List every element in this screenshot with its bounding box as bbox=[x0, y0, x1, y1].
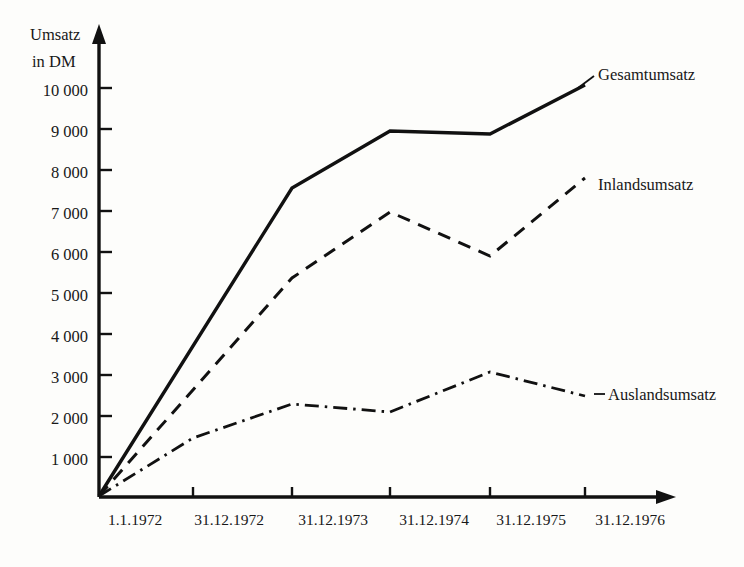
leader-gesamtumsatz bbox=[578, 76, 594, 88]
y-tick-label: 9 000 bbox=[51, 122, 88, 141]
series-line-gesamtumsatz bbox=[99, 85, 585, 496]
chart-figure: Umsatz in DM 10 000 9 000 8 000 7 000 6 … bbox=[0, 0, 744, 567]
series-label-gesamtumsatz: Gesamtumsatz bbox=[598, 65, 695, 84]
x-tick-label: 31.12.1976 bbox=[595, 511, 665, 528]
y-tick-label: 4 000 bbox=[51, 327, 88, 346]
y-tick-label: 5 000 bbox=[51, 286, 88, 305]
y-axis-arrowhead bbox=[92, 24, 106, 44]
x-tick-label: 31.12.1975 bbox=[496, 511, 566, 528]
y-tick-label: 3 000 bbox=[51, 368, 88, 387]
y-tick-label: 7 000 bbox=[51, 204, 88, 223]
x-tick-label: 1.1.1972 bbox=[108, 511, 162, 528]
y-tick-marks bbox=[99, 88, 112, 457]
series-label-inlandsumsatz: Inlandsumsatz bbox=[598, 175, 693, 194]
y-axis-title-line2: in DM bbox=[32, 52, 76, 71]
x-tick-label: 31.12.1972 bbox=[194, 511, 264, 528]
x-tick-label: 31.12.1974 bbox=[399, 511, 469, 528]
chart-canvas: Umsatz in DM 10 000 9 000 8 000 7 000 6 … bbox=[0, 0, 744, 567]
y-tick-label: 1 000 bbox=[51, 450, 88, 469]
y-tick-label: 8 000 bbox=[51, 163, 88, 182]
y-axis bbox=[92, 24, 106, 497]
y-tick-label: 2 000 bbox=[51, 409, 88, 428]
y-tick-label: 6 000 bbox=[51, 245, 88, 264]
y-tick-label: 10 000 bbox=[43, 81, 88, 100]
series-line-inlandsumsatz bbox=[99, 178, 585, 496]
series-line-auslandsumsatz bbox=[99, 372, 585, 496]
x-axis bbox=[99, 490, 676, 504]
x-tick-label: 31.12.1973 bbox=[298, 511, 368, 528]
x-axis-arrowhead bbox=[656, 490, 676, 504]
y-axis-title-line1: Umsatz bbox=[30, 25, 80, 44]
series-label-auslandsumsatz: Auslandsumsatz bbox=[608, 385, 716, 404]
